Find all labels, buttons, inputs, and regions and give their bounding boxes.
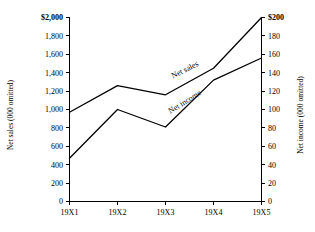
left-tick-label-1600: 1,600 [45, 50, 63, 59]
left-tick-label-200: 200 [51, 179, 63, 188]
x-label-19X1: 19X1 [61, 208, 79, 217]
right-tick-label-0: 0 [268, 197, 272, 206]
x-label-19X3: 19X3 [157, 208, 175, 217]
chart-container: Net sales (000 omitted) Net income (000 … [0, 0, 315, 232]
left-tick-label-600: 600 [51, 142, 63, 151]
left-tick-label-0: 0 [59, 197, 63, 206]
right-tick-label-140: 140 [268, 69, 280, 78]
dual-axis-line-chart: Net sales (000 omitted) Net income (000 … [0, 0, 315, 232]
right-tick-label-120: 120 [268, 87, 280, 96]
x-label-19X2: 19X2 [109, 208, 127, 217]
right-tick-label-80: 80 [268, 124, 276, 133]
right-tick-label-200: $200 [268, 13, 284, 22]
right-tick-label-180: 180 [268, 32, 280, 41]
right-tick-label-100: 100 [268, 105, 280, 114]
x-label-19X5: 19X5 [253, 208, 271, 217]
left-tick-label-800: 800 [51, 124, 63, 133]
left-tick-label-1800: 1,800 [45, 32, 63, 41]
x-label-19X4: 19X4 [205, 208, 223, 217]
right-tick-label-40: 40 [268, 161, 276, 170]
left-tick-label-1000: 1,000 [45, 105, 63, 114]
left-tick-label-2000: $2,000 [41, 13, 63, 22]
right-axis-title: Net income (000 omitted) [296, 76, 305, 154]
right-tick-label-160: 160 [268, 50, 280, 59]
left-tick-label-1200: 1,200 [45, 87, 63, 96]
left-tick-label-400: 400 [51, 161, 63, 170]
right-tick-label-20: 20 [268, 179, 276, 188]
right-tick-label-60: 60 [268, 142, 276, 151]
left-axis-title: Net sales (000 omitted) [6, 79, 15, 150]
left-tick-label-1400: 1,400 [45, 69, 63, 78]
